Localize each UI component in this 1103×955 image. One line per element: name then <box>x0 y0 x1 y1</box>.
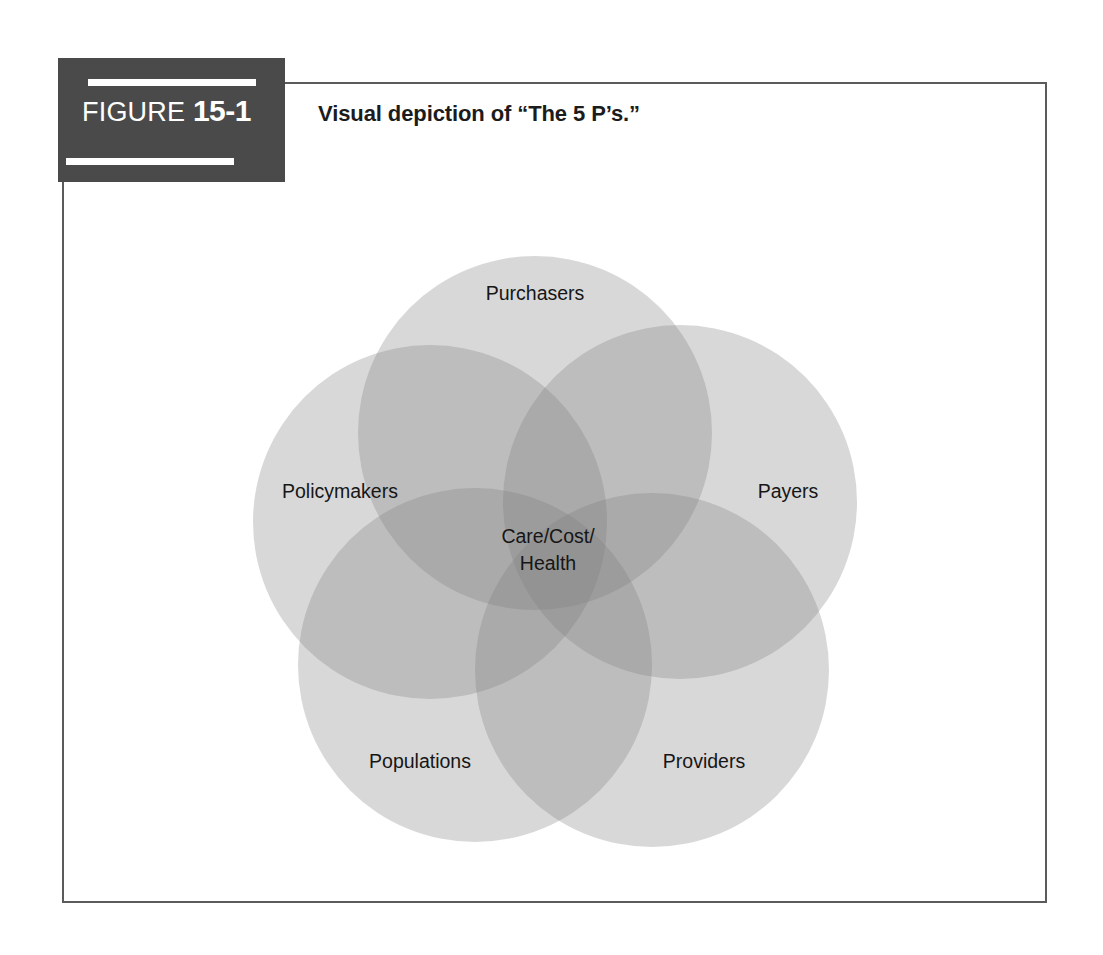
venn-label-center-line2: Health <box>520 552 576 574</box>
venn-diagram: Purchasers Payers Providers Populations … <box>210 230 910 890</box>
figure-number-block: FIGURE 15-1 <box>58 58 285 182</box>
venn-label-policymakers: Policymakers <box>282 480 398 502</box>
figure-tag-word: FIGURE <box>82 97 185 127</box>
figure-tag-rule-top <box>88 79 256 86</box>
venn-svg: Purchasers Payers Providers Populations … <box>210 230 910 890</box>
venn-label-populations: Populations <box>369 750 471 772</box>
venn-label-payers: Payers <box>758 480 819 502</box>
figure-tag-rule-bottom <box>66 158 234 165</box>
figure-root: FIGURE 15-1 Visual depiction of “The 5 P… <box>0 0 1103 955</box>
venn-label-center-line1: Care/Cost/ <box>501 525 595 547</box>
figure-tag-text: FIGURE 15-1 <box>82 96 282 126</box>
venn-label-purchasers: Purchasers <box>486 282 585 304</box>
figure-caption: Visual depiction of “The 5 P’s.” <box>318 101 640 127</box>
venn-label-providers: Providers <box>663 750 746 772</box>
figure-tag-number: 15-1 <box>193 94 251 127</box>
